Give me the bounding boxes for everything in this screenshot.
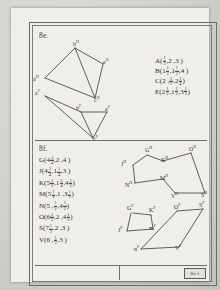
fraction: 12 bbox=[169, 76, 172, 86]
coordinate-text: ) bbox=[67, 201, 69, 212]
coordinate-text: ) bbox=[188, 87, 190, 97]
coordinate-text: ) bbox=[73, 178, 75, 189]
coordinate-point-label: C( bbox=[155, 76, 162, 86]
footer-strip: 8a-f bbox=[35, 265, 207, 280]
mixed-number: 712 bbox=[45, 223, 52, 234]
vertex-label-k-image: KH bbox=[161, 155, 168, 163]
coordinate-text: ,1 ,3 bbox=[55, 189, 67, 200]
fraction: 12 bbox=[54, 236, 57, 246]
page-stamp: 8a-f bbox=[184, 268, 206, 279]
mixed-number: 412 bbox=[65, 178, 72, 189]
mixed-number: 412 bbox=[59, 201, 66, 212]
vertex-label-o-image: OH bbox=[189, 144, 196, 152]
fraction: 12 bbox=[63, 201, 66, 211]
coordinate-entry: V(6 , 12,3 ) bbox=[39, 235, 75, 246]
mixed-number: 612 bbox=[47, 212, 54, 223]
coordinate-text: ,3 bbox=[179, 87, 184, 97]
panel-8f: 8f. G(434,2 ,4 )J(434,114,3 )K(512,134,4… bbox=[35, 141, 207, 266]
mixed-number: 112 bbox=[171, 66, 178, 76]
figure-tetrahedron-preimage: aF bF eF cF bbox=[41, 90, 127, 142]
scan-speck bbox=[181, 103, 182, 104]
fraction: 12 bbox=[49, 224, 52, 234]
figure-polygon-image: GH OH KH JH MH NH VH SH bbox=[119, 149, 211, 203]
fraction: 12 bbox=[50, 178, 53, 188]
vertex-label-s-image: SH bbox=[201, 190, 207, 198]
vertex-label-n-preimage: nF bbox=[134, 244, 139, 252]
coordinate-entry: N(5 , 12,412) bbox=[39, 201, 75, 212]
vertex-label-v-preimage: VF bbox=[175, 243, 182, 251]
fraction: 12 bbox=[52, 190, 55, 200]
fraction: 12 bbox=[175, 87, 178, 97]
coordinate-entry: A(12,2 ,3 ) bbox=[155, 56, 190, 66]
vertex-label-o-preimage: OF bbox=[174, 202, 181, 210]
fraction: 34 bbox=[48, 167, 51, 177]
coordinate-entry: M(512,1 ,312) bbox=[39, 189, 75, 200]
scan-background: 8e. bH aH eH cH bbox=[0, 0, 220, 290]
vertex-label-a-preimage: aF bbox=[35, 88, 40, 96]
coordinate-text: ) bbox=[71, 189, 73, 200]
worksheet-page: 8e. bH aH eH cH bbox=[11, 8, 209, 282]
mixed-number: 112 bbox=[162, 66, 169, 76]
coordinate-point-label: M( bbox=[39, 189, 48, 200]
vertex-label-k-preimage: KF bbox=[149, 205, 156, 213]
mixed-number: 134 bbox=[56, 178, 63, 189]
coordinate-text: 6 , bbox=[47, 235, 54, 246]
vertex-label-j-preimage: JF bbox=[118, 225, 123, 233]
coordinate-point-label: B( bbox=[155, 66, 162, 76]
coordinate-text: 5 , bbox=[47, 201, 54, 212]
fraction: 34 bbox=[60, 178, 63, 188]
vertex-label-s-preimage: SF bbox=[199, 200, 205, 208]
vertex-label-n-image: NH bbox=[125, 180, 132, 188]
coordinate-entry: B(112,112,4 ) bbox=[155, 66, 190, 76]
fraction: 34 bbox=[50, 156, 53, 166]
fraction: 12 bbox=[166, 66, 169, 76]
coordinate-text: ,2 ,3 ) bbox=[167, 56, 183, 66]
figure-polygon-preimage: GF KF OF SF JF mF nF VF bbox=[119, 203, 211, 259]
coordinate-point-label: K( bbox=[39, 178, 46, 189]
coordinate-point-label: O( bbox=[39, 212, 46, 223]
mixed-number: 512 bbox=[48, 189, 55, 200]
coordinate-text: ) bbox=[70, 212, 72, 223]
vertex-label-a-image: aH bbox=[33, 74, 39, 82]
coordinate-text: ,3 ) bbox=[61, 166, 70, 177]
coordinate-entry: S(712,2 ,3 ) bbox=[39, 223, 75, 234]
fraction: 12 bbox=[175, 66, 178, 76]
coordinate-text: ,2 ,4 ) bbox=[54, 155, 70, 166]
mixed-number: 434 bbox=[44, 166, 51, 177]
vertex-label-g-preimage: GF bbox=[127, 203, 134, 211]
coordinate-entry: G(434,2 ,4 ) bbox=[39, 155, 75, 166]
mixed-number: 512 bbox=[47, 178, 54, 189]
coordinate-list-8e: A(12,2 ,3 )B(112,112,4 )C(2 , 12,214)E(2… bbox=[155, 56, 190, 97]
vertex-label-v-image: VH bbox=[171, 191, 178, 199]
footer-divider bbox=[119, 265, 120, 280]
fraction: 12 bbox=[50, 213, 53, 223]
scan-speck bbox=[101, 68, 102, 69]
fraction: 12 bbox=[184, 87, 187, 97]
coordinate-entry: O(612,2 ,412) bbox=[39, 212, 75, 223]
panel-8e: 8e. bH aH eH cH bbox=[35, 28, 207, 141]
mixed-number: 114 bbox=[53, 166, 60, 177]
vertex-label-e-preimage: eF bbox=[105, 104, 110, 112]
fraction: 12 bbox=[166, 87, 169, 97]
vertex-label-g-image: GH bbox=[145, 145, 152, 153]
fraction: 12 bbox=[68, 190, 71, 200]
coordinate-point-label: G( bbox=[39, 155, 46, 166]
fraction: 12 bbox=[163, 56, 166, 66]
coordinate-point-label: E( bbox=[155, 87, 162, 97]
coordinate-point-label: N( bbox=[39, 201, 46, 212]
coordinate-point-label: V( bbox=[39, 235, 46, 246]
fraction: 12 bbox=[67, 213, 70, 223]
coordinate-entry: E(212,112,312) bbox=[155, 87, 190, 97]
vertex-label-m-image: MH bbox=[160, 173, 168, 181]
mixed-number: 112 bbox=[171, 87, 178, 97]
fraction: 14 bbox=[179, 76, 182, 86]
coordinate-point-label: A( bbox=[155, 56, 162, 66]
mixed-number: 434 bbox=[47, 155, 54, 166]
fraction: 14 bbox=[57, 167, 60, 177]
mixed-number: 212 bbox=[162, 87, 169, 97]
vertex-label-b-image: bH bbox=[73, 39, 79, 47]
vertex-label-b-preimage: bF bbox=[76, 103, 81, 111]
scan-speck bbox=[161, 208, 162, 209]
coordinate-entry: K(512,134,412) bbox=[39, 178, 75, 189]
coordinate-entry: J(434,114,3 ) bbox=[39, 166, 75, 177]
